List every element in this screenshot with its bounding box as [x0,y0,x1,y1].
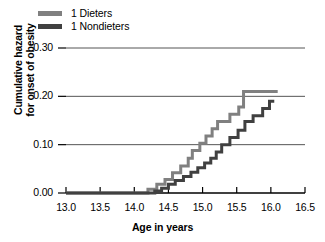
x-tick-label: 13.0 [49,201,83,213]
x-tick-label: 16.0 [254,201,288,213]
x-tick-label: 15.0 [186,201,220,213]
x-tick-label: 13.5 [83,201,117,213]
series-layer [66,92,278,194]
y-axis-ticks [58,48,66,193]
gridlines [66,48,305,145]
x-tick-label: 16.5 [288,201,322,213]
x-axis-title: Age in years [0,221,325,233]
chart-figure: 1 Dieters 1 Nondieters 0.300.200.100.00 … [0,0,325,242]
x-tick-label: 14.5 [151,201,185,213]
x-tick-label: 15.5 [220,201,254,213]
y-axis-title: Cumulative hazard for onset of obesity [12,0,36,140]
series-line-dieters [66,92,278,194]
y-axis-title-line2: for onset of obesity [24,0,36,140]
y-tick-label: 0.00 [23,186,53,198]
y-axis-title-line1: Cumulative hazard [12,0,24,140]
x-tick-label: 14.0 [117,201,151,213]
